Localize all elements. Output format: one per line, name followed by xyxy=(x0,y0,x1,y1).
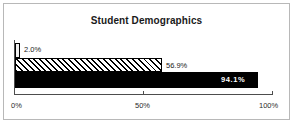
x-tick-label-100: 100% xyxy=(259,101,278,110)
chart-title: Student Demographics xyxy=(0,15,293,26)
bar-series-1[interactable] xyxy=(15,43,20,58)
chart-container: Student Demographics 0% 50% 100% 2.0% 56… xyxy=(0,0,293,123)
bar-label-series-1: 2.0% xyxy=(24,45,41,54)
x-tick-label-0: 0% xyxy=(11,101,22,110)
x-tick-100 xyxy=(272,91,273,95)
x-tick-label-50: 50% xyxy=(135,101,150,110)
plot-area: 2.0% 56.9% 94.1% xyxy=(15,40,272,94)
bar-series-2[interactable] xyxy=(15,58,162,72)
bar-label-series-2: 56.9% xyxy=(166,61,187,70)
bar-label-series-3: 94.1% xyxy=(221,75,245,84)
